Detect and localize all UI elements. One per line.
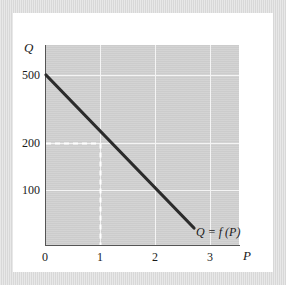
y-axis-label: Q xyxy=(24,40,33,56)
gridline-horizontal-q100 xyxy=(45,190,239,191)
curve-equation-label: Q = f (P) xyxy=(196,225,240,240)
x-tick-label-3: 3 xyxy=(199,250,221,265)
y-axis-line xyxy=(45,45,46,246)
x-tick-label-2: 2 xyxy=(144,250,166,265)
y-tick-label-200: 200 xyxy=(10,136,40,151)
y-tick-label-100: 100 xyxy=(10,183,40,198)
gridline-horizontal-q500 xyxy=(45,75,239,76)
x-axis-label: P xyxy=(243,248,251,264)
y-tick-label-500: 500 xyxy=(10,68,40,83)
x-tick-label-0: 0 xyxy=(34,250,56,265)
gridline-horizontal-q200 xyxy=(45,143,239,144)
x-tick-label-1: 1 xyxy=(89,250,111,265)
demand-curve-figure: 500 200 100 0 1 2 3 Q P Q = f (P) xyxy=(0,0,286,285)
x-axis-line xyxy=(45,245,240,246)
